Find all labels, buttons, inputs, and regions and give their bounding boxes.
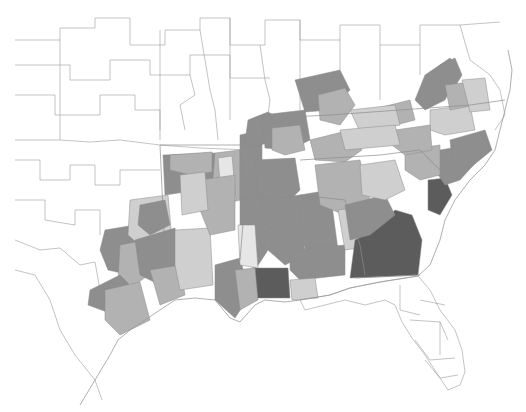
county-boundary <box>15 270 102 400</box>
region-ms-south-dark <box>255 268 290 298</box>
county-boundary <box>15 95 160 130</box>
region-tn-west-b <box>272 125 305 155</box>
county-boundary <box>15 18 500 45</box>
county-boundary <box>15 160 160 185</box>
county-boundary <box>15 240 100 290</box>
region-tx-gulf-b <box>105 282 150 335</box>
county-boundary <box>15 55 270 80</box>
florida <box>300 276 465 390</box>
region-al-south <box>290 245 345 280</box>
region-la-north <box>180 172 208 215</box>
region-ky-central <box>318 88 355 125</box>
county-boundary <box>410 320 448 340</box>
region-tn-east-light <box>340 125 400 150</box>
county-boundary <box>180 75 195 130</box>
region-ms-gulf-light <box>290 278 318 300</box>
county-boundary <box>200 30 218 140</box>
region-tx-northeast-b <box>170 152 212 175</box>
county-boundary <box>400 285 420 315</box>
region-la-west <box>175 228 213 290</box>
map-canvas <box>0 0 526 412</box>
county-boundary <box>15 200 100 235</box>
region-ga-north-light <box>360 160 405 200</box>
choropleth-map <box>0 0 526 412</box>
county-boundary <box>260 45 270 115</box>
county-boundary <box>420 300 445 305</box>
